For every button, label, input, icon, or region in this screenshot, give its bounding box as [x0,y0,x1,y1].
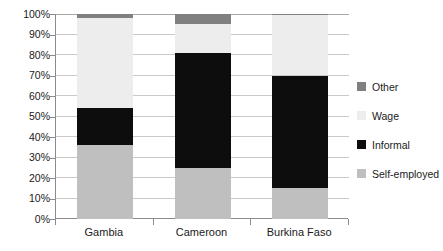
bar-segment-other[interactable] [77,14,133,18]
x-axis-tick-mark [153,219,154,225]
bar-segment-self-employed[interactable] [272,188,328,219]
y-axis-tick-label: 30% [2,152,50,163]
legend-label: Wage [372,110,399,122]
x-axis-tick-mark [250,219,251,225]
bar-segment-informal[interactable] [175,53,231,168]
bar-segment-other[interactable] [175,14,231,24]
y-axis-tick-label: 60% [2,91,50,102]
y-axis-tick-label: 20% [2,173,50,184]
bar-segment-self-employed[interactable] [77,145,133,219]
y-axis-tick-label: 0% [2,214,50,225]
legend-swatch-icon [357,169,366,178]
bar-segment-self-employed[interactable] [175,168,231,219]
bar-stack [272,14,328,218]
y-axis-tick-label: 40% [2,132,50,143]
bar-segment-wage[interactable] [77,18,133,108]
legend-swatch-icon [357,111,366,120]
legend-item-wage[interactable]: Wage [357,101,443,130]
bar-group [175,14,231,218]
chart-legend: OtherWageInformalSelf-employed [357,72,443,188]
legend-item-other[interactable]: Other [357,72,443,101]
y-axis-tick-label: 100% [2,9,50,20]
bar-segment-wage[interactable] [272,15,328,75]
y-axis-tick-label: 80% [2,50,50,61]
bar-segment-informal[interactable] [77,108,133,145]
legend-item-self-employed[interactable]: Self-employed [357,159,443,188]
y-axis-tick-label: 50% [2,111,50,122]
plot-area [55,14,348,219]
y-axis: 0%10%20%30%40%50%60%70%80%90%100% [0,0,50,251]
bar-stack [175,14,231,218]
legend-label: Informal [372,139,410,151]
x-axis-label-burkina-faso: Burkina Faso [250,226,348,239]
x-axis-label-gambia: Gambia [55,226,153,239]
legend-label: Other [372,81,398,93]
bar-group [272,14,328,218]
legend-swatch-icon [357,140,366,149]
y-axis-tick-label: 90% [2,29,50,40]
x-axis-tick-mark [348,219,349,225]
bar-segment-other[interactable] [272,14,328,15]
stacked-bar-chart: 0%10%20%30%40%50%60%70%80%90%100% Gambia… [0,0,443,251]
y-axis-tick-label: 10% [2,193,50,204]
bar-group [77,14,133,218]
bar-segment-informal[interactable] [272,76,328,189]
legend-label: Self-employed [372,168,439,180]
x-axis-tick-mark [55,219,56,225]
x-axis-label-cameroon: Cameroon [153,226,251,239]
y-axis-tick-label: 70% [2,70,50,81]
legend-swatch-icon [357,82,366,91]
legend-item-informal[interactable]: Informal [357,130,443,159]
bar-segment-wage[interactable] [175,24,231,53]
bar-stack [77,14,133,218]
